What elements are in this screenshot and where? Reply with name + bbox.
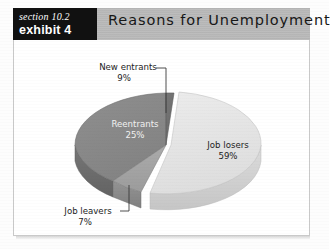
exhibit-badge: section 10.2 exhibit 4 [13,8,97,40]
callout-job-losers-value: 59% [196,151,260,162]
callout-new-entrants-value: 9% [82,73,166,84]
badge-exhibit-label: exhibit 4 [19,23,97,37]
callout-reentrants-value: 25% [106,130,164,141]
callout-job-losers: Job losers 59% [196,140,260,162]
badge-section-label: section 10.2 [19,11,97,23]
callout-new-entrants: New entrants 9% [90,62,166,84]
page-title: Reasons for Unemployment [108,12,331,28]
callout-job-losers-label: Job losers [207,140,248,150]
callout-job-leavers-label: Job leavers [64,206,111,216]
panel-shadow [16,236,310,239]
callout-reentrants-label: Reentrants [111,119,158,129]
callout-reentrants: Reentrants 25% [106,119,164,141]
callout-job-leavers: Job leavers 7% [52,206,124,228]
callout-new-entrants-label: New entrants [99,62,157,72]
callout-job-leavers-value: 7% [46,217,124,228]
